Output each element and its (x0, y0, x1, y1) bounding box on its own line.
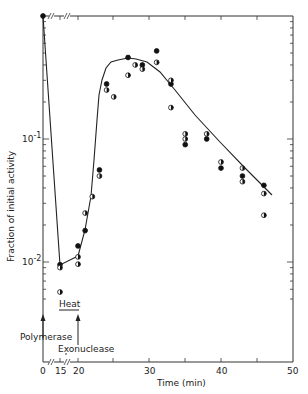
filled-circle-point (183, 142, 188, 147)
half-filled-circle-point (58, 265, 63, 270)
filled-circle-point (83, 228, 88, 233)
half-filled-circle-point (262, 213, 267, 218)
half-filled-circle-point (204, 132, 209, 137)
x-axis-label: Time (min) (156, 378, 206, 388)
xtick-label-0: 0 (40, 366, 46, 376)
xtick-label-20: 20 (73, 366, 85, 376)
xtick-label-15: 15 (55, 366, 66, 376)
half-filled-circle-point (240, 179, 245, 184)
half-filled-circle-point (154, 60, 159, 65)
half-filled-circle-point (183, 132, 188, 137)
exonuclease-arrow-icon (76, 314, 81, 345)
half-filled-circle-point (219, 160, 224, 165)
xtick-label-30: 30 (144, 366, 156, 376)
filled-circle-point (76, 244, 81, 249)
filled-circle-point (204, 137, 209, 142)
half-filled-circle-point (169, 105, 174, 110)
filled-circle-point (41, 14, 46, 19)
half-filled-circle-point (111, 94, 116, 99)
half-filled-circle-point (90, 194, 95, 199)
half-filled-circle-point (133, 63, 138, 68)
ytick-label-1e-1: 10-1 (22, 131, 41, 144)
heat-annotation: Heat (59, 299, 81, 310)
dot-marker (65, 353, 67, 355)
filled-circle-point (126, 55, 131, 60)
half-filled-circle-point (76, 255, 81, 260)
half-filled-circle-point (83, 211, 88, 216)
xtick-label-50: 50 (287, 366, 299, 376)
half-filled-circle-point (169, 78, 174, 83)
axes-frame (43, 16, 293, 362)
polymerase-label: Polymerase (20, 332, 73, 342)
exonuclease-label: Exonuclease (58, 344, 115, 354)
chart: 10-1 10-2 Fraction of initial activity 0… (0, 0, 308, 394)
half-filled-circle-point (58, 290, 63, 295)
x-ticks (60, 16, 257, 362)
filled-circle-point (154, 49, 159, 54)
y-axis-label: Fraction of initial activity (6, 150, 16, 262)
half-filled-circle-point (262, 191, 267, 196)
ytick-label-1e-2: 10-2 (22, 254, 41, 267)
data-points (41, 14, 267, 295)
half-filled-circle-point (140, 67, 145, 72)
filled-circle-point (240, 174, 245, 179)
filled-circle-point (219, 166, 224, 171)
half-filled-circle-point (126, 73, 131, 78)
half-filled-circle-point (97, 174, 102, 179)
half-filled-circle-point (240, 166, 245, 171)
filled-circle-point (97, 168, 102, 173)
svg-text:Heat: Heat (59, 299, 81, 309)
half-filled-circle-point (76, 262, 81, 267)
axis-break-marks (48, 13, 70, 365)
half-filled-circle-point (183, 137, 188, 142)
filled-circle-point (262, 183, 267, 188)
filled-circle-point (104, 82, 109, 87)
xtick-label-40: 40 (216, 366, 228, 376)
half-filled-circle-point (104, 88, 109, 93)
